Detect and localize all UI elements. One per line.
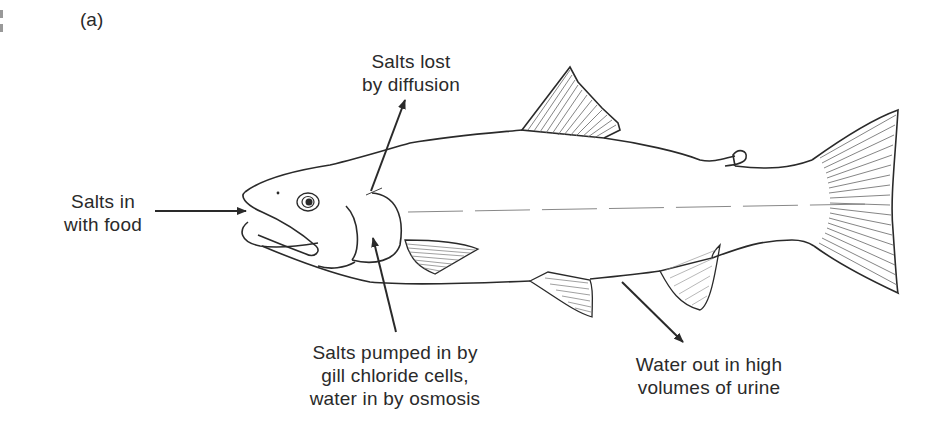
annotation-salts-in-food: Salts in with food: [52, 190, 154, 236]
anal-fin: [660, 245, 720, 310]
annotation-salts-lost: Salts lost by diffusion: [355, 50, 467, 96]
annotation-line: Salts in: [52, 190, 154, 213]
dorsal-fin: [522, 67, 620, 138]
annotation-salts-pumped: Salts pumped in by gill chloride cells, …: [290, 341, 500, 410]
annotation-line: volumes of urine: [614, 376, 804, 399]
arrow-salts-pumped: [373, 238, 396, 332]
pectoral-fin: [405, 240, 478, 274]
annotation-line: water in by osmosis: [290, 387, 500, 410]
caudal-fin: [812, 110, 898, 293]
annotation-line: Water out in high: [614, 353, 804, 376]
annotation-line: gill chloride cells,: [290, 364, 500, 387]
annotation-water-out: Water out in high volumes of urine: [614, 353, 804, 399]
annotation-line: Salts lost: [355, 50, 467, 73]
pelvic-fin: [530, 272, 593, 317]
arrow-water-out: [622, 282, 683, 342]
annotation-line: with food: [52, 213, 154, 236]
annotation-line: by diffusion: [355, 73, 467, 96]
fish-eye: [277, 192, 319, 211]
annotation-line: Salts pumped in by: [290, 341, 500, 364]
lateral-line: [408, 204, 870, 212]
